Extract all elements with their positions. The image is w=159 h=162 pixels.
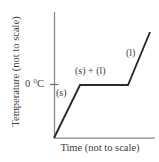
- phase-label-liquid: (l): [126, 47, 135, 58]
- y-axis-tick-label-0c: 0 °C: [25, 78, 44, 89]
- chart-plot-area: [0, 0, 159, 162]
- x-axis-title: Time (not to scale): [41, 142, 159, 153]
- heating-curve-figure: Temperature (not to scale) Time (not to …: [0, 0, 159, 162]
- heating-curve-line: [54, 32, 150, 138]
- phase-label-solid-liquid: (s) + (l): [75, 65, 106, 76]
- phase-label-solid: (s): [56, 87, 67, 98]
- y-axis-title: Temperature (not to scale): [10, 13, 21, 131]
